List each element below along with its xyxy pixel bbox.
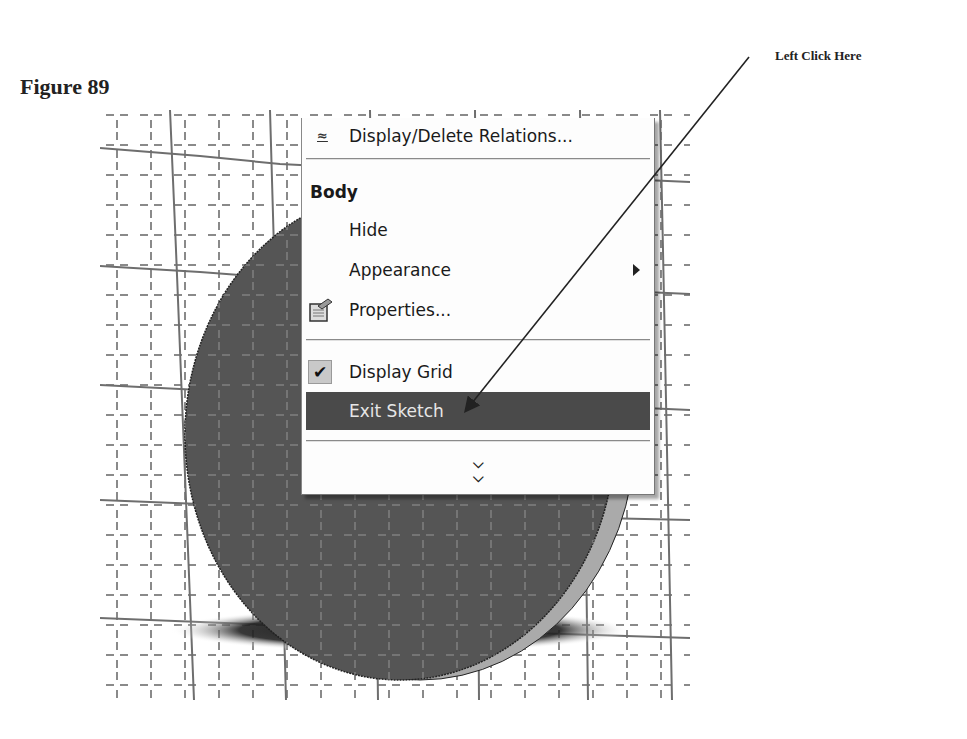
properties-icon	[308, 297, 334, 323]
menu-section-header-body: Body	[302, 174, 654, 210]
menu-item-exit-sketch[interactable]: Exit Sketch	[306, 392, 650, 430]
menu-separator	[306, 440, 650, 442]
menu-item-appearance[interactable]: Appearance	[302, 252, 654, 288]
callout-label: Left Click Here	[775, 48, 861, 64]
double-chevron-down-icon[interactable]: ⌵⌵	[302, 456, 654, 484]
context-menu: ≈ Display/Delete Relations... Body Hide …	[301, 118, 655, 495]
menu-item-properties[interactable]: Properties...	[302, 292, 654, 328]
relations-icon: ≈	[317, 128, 328, 143]
checkmark-icon: ✔	[308, 360, 332, 384]
menu-separator	[306, 339, 650, 341]
menu-item-hide[interactable]: Hide	[302, 212, 654, 248]
triangle-right-icon	[633, 264, 640, 276]
menu-item-display-delete-relations[interactable]: ≈ Display/Delete Relations...	[302, 118, 654, 154]
figure-title: Figure 89	[20, 74, 109, 100]
menu-item-display-grid[interactable]: ✔ Display Grid	[302, 354, 654, 390]
menu-separator	[306, 158, 650, 160]
